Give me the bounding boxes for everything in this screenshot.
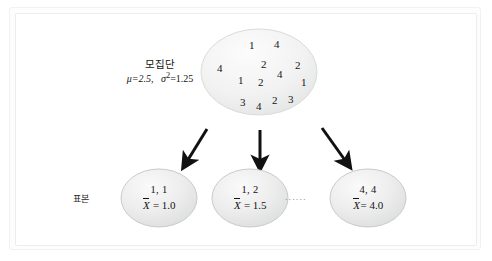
sample-1-mean-value: = 1.0	[150, 199, 175, 211]
sample-ellipsis: ......	[285, 192, 307, 202]
population-parameters: μ=2.5, σ2=1.25	[110, 71, 210, 85]
sample-2-mean: X = 1.5	[202, 199, 298, 211]
population-value-10: 3	[240, 96, 246, 108]
population-value-4: 2	[261, 58, 267, 70]
sample-1-xbar: X	[142, 199, 150, 211]
diagram-canvas: 모집단 μ=2.5, σ2=1.25 1442421213423 표본 1, 1…	[0, 0, 492, 261]
sample-row-label: 표본	[73, 194, 89, 204]
diagram-artwork	[0, 0, 492, 261]
sample-caption-3: 4, 4 X= 4.0	[320, 184, 416, 211]
sample-caption-2: 1, 2 X = 1.5	[202, 184, 298, 211]
population-label: 모집단 μ=2.5, σ2=1.25	[110, 58, 210, 85]
sample-3-pair: 4, 4	[320, 184, 416, 195]
sample-2-xbar: X	[233, 199, 241, 211]
population-label-korean: 모집단	[110, 58, 210, 70]
sample-1-pair: 1, 1	[111, 184, 207, 195]
population-value-11: 4	[256, 100, 262, 112]
population-sigma-value: =1.25	[170, 73, 193, 84]
population-value-3: 4	[217, 62, 223, 74]
sample-1-mean: X = 1.0	[111, 199, 207, 211]
population-value-2: 4	[274, 38, 280, 50]
population-value-8: 2	[258, 76, 264, 88]
sample-3-xbar: X	[353, 199, 361, 211]
sample-2-pair: 1, 2	[202, 184, 298, 195]
sample-3-mean-value: = 4.0	[361, 199, 384, 211]
population-value-12: 2	[272, 94, 278, 106]
arrow-to-sample-3	[322, 128, 347, 163]
population-value-5: 4	[277, 68, 283, 80]
sample-2-mean-value: = 1.5	[241, 199, 266, 211]
population-value-1: 1	[249, 39, 255, 51]
sample-caption-1: 1, 1 X = 1.0	[111, 184, 207, 211]
sample-3-mean: X= 4.0	[320, 199, 416, 211]
population-value-13: 3	[288, 93, 294, 105]
arrow-to-sample-1	[186, 129, 207, 163]
population-value-6: 2	[295, 59, 301, 71]
population-value-7: 1	[238, 74, 244, 86]
population-value-9: 1	[301, 76, 307, 88]
population-mu: μ=2.5,	[127, 73, 154, 84]
